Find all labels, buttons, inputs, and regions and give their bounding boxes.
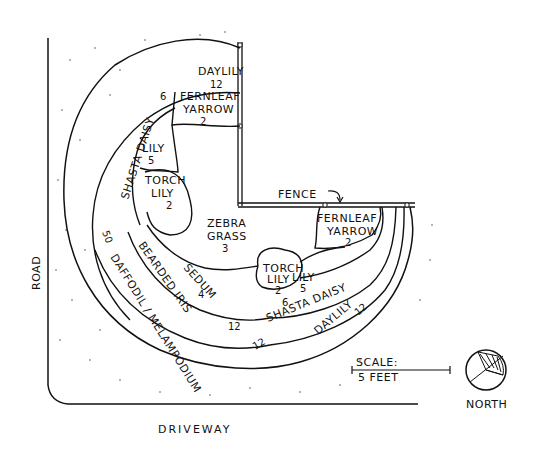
compass-label: NORTH: [466, 398, 507, 411]
label-zebra-grass-2: GRASS: [207, 230, 247, 243]
count-shasta-daisy-right: 6: [282, 297, 288, 308]
count-fernleaf-yarrow-top: 2: [200, 116, 206, 127]
count-torch-lily-left: 2: [166, 200, 172, 211]
label-fernleaf-yarrow-right-1: FERNLEAF: [317, 212, 377, 225]
label-fernleaf-yarrow-top-2: YARROW: [182, 103, 234, 116]
count-lily-right: 5: [300, 283, 306, 294]
count-shasta-daisy-left: 6: [160, 91, 166, 102]
label-fernleaf-yarrow-top-1: FERNLEAF: [180, 90, 240, 103]
label-fence: FENCE: [278, 188, 317, 201]
count-bearded-iris: 12: [228, 321, 241, 332]
count-sedum: 4: [198, 289, 204, 300]
north-compass-icon: NORTH: [466, 350, 507, 411]
fence: [238, 42, 415, 207]
count-zebra-grass: 3: [222, 243, 228, 254]
count-daylily-top: 12: [210, 79, 223, 90]
label-lily-left: LILY: [142, 142, 165, 155]
label-torch-lily-left-2: LILY: [151, 187, 174, 200]
label-daylily-top: DAYLILY: [198, 65, 244, 78]
count-fernleaf-yarrow-right: 2: [345, 237, 351, 248]
count-lily-left: 5: [148, 155, 154, 166]
label-torch-lily-left-1: TORCH: [144, 174, 186, 187]
count-melampodium: 12: [251, 336, 268, 352]
label-fernleaf-yarrow-right-2: YARROW: [326, 225, 378, 238]
label-driveway: DRIVEWAY: [158, 423, 232, 436]
count-daylily-right: 12: [352, 301, 369, 318]
scale-label-2: 5 FEET: [358, 371, 398, 384]
count-torch-lily-right: 2: [275, 285, 281, 296]
garden-plan-diagram: DAYLILY 12 FERNLEAF YARROW 2 SHASTA DAIS…: [0, 0, 538, 452]
count-daffodil: 50: [100, 229, 115, 245]
scale-label-1: SCALE:: [356, 356, 398, 369]
scale-bar: SCALE: 5 FEET: [352, 356, 450, 384]
label-road: ROAD: [30, 256, 43, 290]
label-zebra-grass-1: ZEBRA: [207, 217, 246, 230]
